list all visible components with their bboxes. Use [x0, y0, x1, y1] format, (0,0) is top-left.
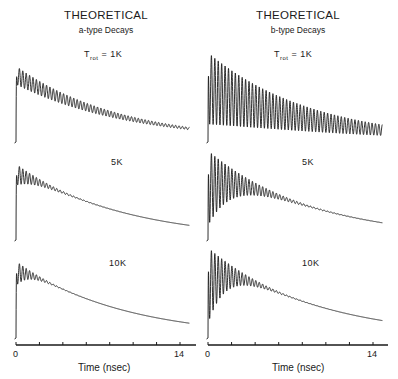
right-x-axis-title: Time (nsec) [272, 362, 324, 373]
right-x-tick-14: 14 [367, 349, 377, 359]
right-x-tick-0: 0 [205, 349, 210, 359]
right-row1-label: Trot = 1K [274, 49, 312, 61]
a-type-decay-curve-trot1k [15, 69, 190, 144]
left-row1-label: Trot = 1K [84, 49, 122, 61]
decay-plots [0, 0, 398, 379]
left-x-axis-title: Time (nsec) [78, 362, 130, 373]
left-row2-label: 5K [111, 157, 123, 167]
b-type-decay-curve-10k [207, 251, 383, 339]
a-type-decay-curve-10k [15, 264, 190, 339]
left-row3-label: 10K [109, 258, 127, 268]
left-x-tick-0: 0 [13, 349, 18, 359]
b-type-decay-curve-5k [207, 154, 383, 241]
a-type-decay-curve-5k [15, 167, 190, 242]
left-x-tick-14: 14 [174, 349, 184, 359]
right-row3-label: 10K [302, 258, 320, 268]
b-type-decay-curve-trot1k [207, 56, 383, 143]
right-row2-label: 5K [302, 157, 314, 167]
